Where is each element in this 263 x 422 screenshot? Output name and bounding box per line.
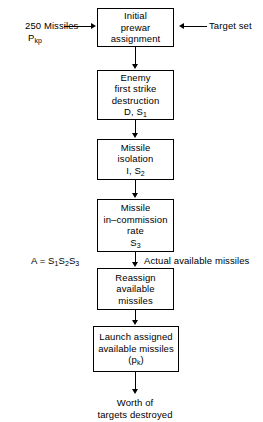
- box-missile-isolation: Missile isolation I, S2: [97, 139, 174, 180]
- input-right-arrowhead-icon: [179, 23, 184, 29]
- input-right-connector-line: [184, 26, 207, 27]
- annotation-note: Actual available missiles: [144, 255, 249, 267]
- box-reassign-available-missiles: Reassign available missiles: [97, 268, 174, 310]
- connector-1-to-2: [135, 47, 136, 65]
- box-line: assignment: [111, 33, 161, 45]
- box-symbol: I, S2: [126, 165, 145, 178]
- box-symbol: D, S1: [124, 106, 147, 119]
- box-line: in–commission: [103, 214, 167, 226]
- flowchart-diagram: 250 Missiles Pkp Target set Initial prew…: [0, 0, 263, 422]
- box-line: available missiles: [98, 343, 174, 355]
- box-missile-in-commission-rate: Missile in–commission rate S3: [97, 199, 174, 252]
- connector-6-to-output-arrowhead-icon: [132, 389, 138, 394]
- box-line: isolation: [118, 153, 154, 165]
- connector-4-to-5-arrowhead-icon: [132, 262, 138, 267]
- box-line: Enemy: [120, 72, 150, 84]
- box-line: Missile: [121, 142, 151, 154]
- box-launch-assigned-available-missiles: Launch assigned available missiles (pk): [93, 326, 179, 372]
- box-line: prewar: [121, 22, 151, 34]
- input-right-target-set-label: Target set: [209, 20, 252, 32]
- box-line: first strike: [115, 83, 157, 95]
- connector-5-to-6-arrowhead-icon: [132, 320, 138, 325]
- output-worth-line1: Worth of: [85, 397, 185, 409]
- box-symbol: (pk): [128, 354, 144, 367]
- box-line: missiles: [118, 295, 153, 307]
- box-initial-prewar-assignment: Initial prewar assignment: [97, 8, 174, 47]
- box-line: Reassign: [115, 272, 155, 284]
- box-enemy-first-strike-destruction: Enemy first strike destruction D, S1: [97, 70, 174, 120]
- box-line: Initial: [124, 10, 147, 22]
- box-line: rate: [127, 225, 144, 237]
- connector-6-to-output: [135, 372, 136, 390]
- connector-3-to-4: [135, 180, 136, 194]
- output-worth-line2: targets destroyed: [85, 409, 185, 421]
- box-symbol: S3: [130, 237, 140, 250]
- box-line: Launch assigned: [99, 331, 172, 343]
- connector-2-to-3: [135, 120, 136, 134]
- connector-3-to-4-arrowhead-icon: [132, 193, 138, 198]
- connector-1-to-2-arrowhead-icon: [132, 64, 138, 69]
- connector-2-to-3-arrowhead-icon: [132, 133, 138, 138]
- annotation-formula: A = S1S2S3: [31, 255, 79, 268]
- box-line: destruction: [112, 95, 160, 107]
- box-line: Missile: [121, 202, 151, 214]
- input-left-arrowhead-icon: [91, 23, 96, 29]
- input-left-pkp-label: Pkp: [28, 32, 42, 45]
- box-line: available: [116, 283, 154, 295]
- input-left-connector-line: [64, 26, 92, 27]
